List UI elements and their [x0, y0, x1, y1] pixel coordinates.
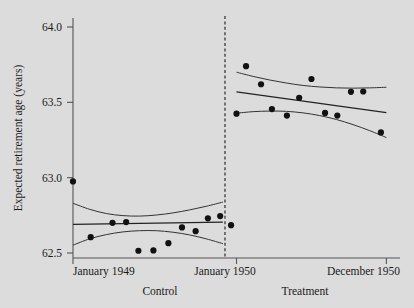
treatment-point — [233, 111, 239, 117]
control-point — [150, 247, 156, 253]
panel-label-treatment: Treatment — [282, 285, 330, 297]
control-point — [205, 215, 211, 221]
control-point — [123, 219, 129, 225]
treatment-point — [378, 129, 384, 135]
treatment-point — [322, 110, 328, 116]
y-tick-label: 63.5 — [42, 96, 62, 108]
chart-background — [0, 0, 414, 308]
x-tick-label-december-1950: December 1950 — [327, 265, 400, 277]
treatment-point — [308, 76, 314, 82]
x-tick-label-january-1950: January 1950 — [194, 265, 256, 278]
y-tick-label: 62.5 — [42, 247, 62, 259]
y-tick-label: 63.0 — [42, 172, 62, 184]
treatment-point — [258, 81, 264, 87]
treatment-point — [360, 88, 366, 94]
treatment-point — [284, 112, 290, 118]
control-point — [165, 240, 171, 246]
treatment-point — [243, 63, 249, 69]
scatter-plot: 62.563.063.564.0 Expected retirement age… — [0, 0, 414, 308]
y-tick-label: 64.0 — [42, 21, 62, 33]
treatment-point — [296, 95, 302, 101]
control-point — [88, 234, 94, 240]
treatment-point — [269, 106, 275, 112]
treatment-point — [348, 89, 354, 95]
control-point — [109, 220, 115, 226]
panel-label-control: Control — [142, 285, 177, 297]
x-tick-label-january-1949: January 1949 — [73, 265, 135, 278]
chart-figure: 62.563.063.564.0 Expected retirement age… — [0, 0, 414, 308]
control-point — [228, 222, 234, 228]
y-axis-title: Expected retirement age (years) — [12, 65, 25, 212]
control-point — [217, 213, 223, 219]
control-point — [179, 224, 185, 230]
control-point — [70, 178, 76, 184]
treatment-point — [334, 112, 340, 118]
control-point — [135, 248, 141, 254]
control-point — [193, 228, 199, 234]
